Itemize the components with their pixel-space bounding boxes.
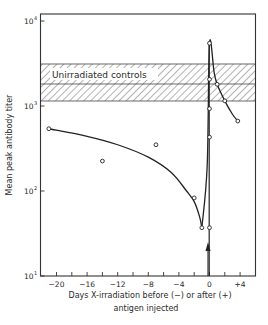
x-tick-label: −16	[79, 280, 95, 289]
control-band: Unirradiated controls	[41, 64, 256, 101]
y-axis-label: Mean peak antibody titer	[5, 94, 14, 195]
x-tick-label: 0	[207, 280, 212, 289]
control-band-label: Unirradiated controls	[52, 70, 147, 80]
data-point	[101, 159, 105, 163]
x-tick-label: −4	[173, 280, 184, 289]
x-axis-label-line2: antigen injected	[114, 304, 179, 313]
x-tick-label: −12	[110, 280, 126, 289]
y-tick-label: 10	[24, 187, 34, 196]
chart: Unirradiated controls −20−16−12−8−40+410…	[0, 0, 268, 325]
data-point	[223, 99, 227, 103]
data-point	[208, 226, 212, 230]
svg-text:4: 4	[34, 15, 37, 21]
y-tick-label: 10	[24, 272, 34, 281]
data-point	[47, 127, 51, 131]
fitted-curve-0	[49, 129, 202, 228]
x-tick-label: −8	[143, 280, 154, 289]
plot-frame	[41, 14, 256, 276]
data-point	[208, 41, 212, 45]
x-axis-label-line1: Days X-irradiation before (−) or after (…	[68, 291, 231, 300]
y-tick-label: 10	[24, 17, 34, 26]
data-point	[208, 107, 212, 111]
data-point	[208, 135, 212, 139]
x-tick-label: −20	[49, 280, 65, 289]
svg-text:3: 3	[34, 100, 37, 106]
svg-text:1: 1	[34, 270, 37, 276]
data-point	[192, 196, 196, 200]
data-point	[200, 226, 204, 230]
y-tick-label: 10	[24, 102, 34, 111]
data-point	[215, 82, 219, 86]
x-tick-label: +4	[235, 280, 246, 289]
data-point	[208, 77, 212, 81]
svg-text:2: 2	[34, 185, 37, 191]
data-point	[154, 143, 158, 147]
data-point	[236, 119, 240, 123]
